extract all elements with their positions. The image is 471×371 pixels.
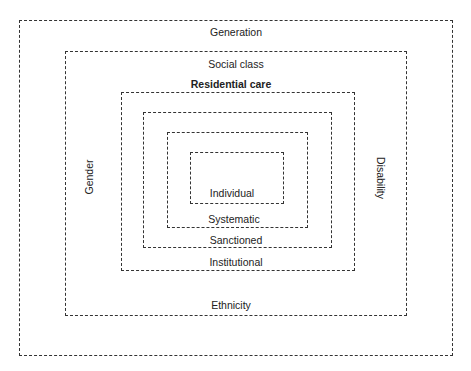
disability-label: Disability bbox=[375, 157, 387, 199]
institutional-label: Institutional bbox=[209, 256, 262, 268]
gender-label: Gender bbox=[83, 159, 95, 194]
sanctioned-label: Sanctioned bbox=[210, 234, 263, 246]
ethnicity-label: Ethnicity bbox=[211, 299, 251, 311]
systematic-label: Systematic bbox=[208, 213, 259, 225]
social-class-label: Social class bbox=[208, 58, 263, 70]
generation-label: Generation bbox=[210, 26, 262, 38]
residential-care-label: Residential care bbox=[191, 78, 272, 90]
individual-label: Individual bbox=[210, 187, 254, 199]
